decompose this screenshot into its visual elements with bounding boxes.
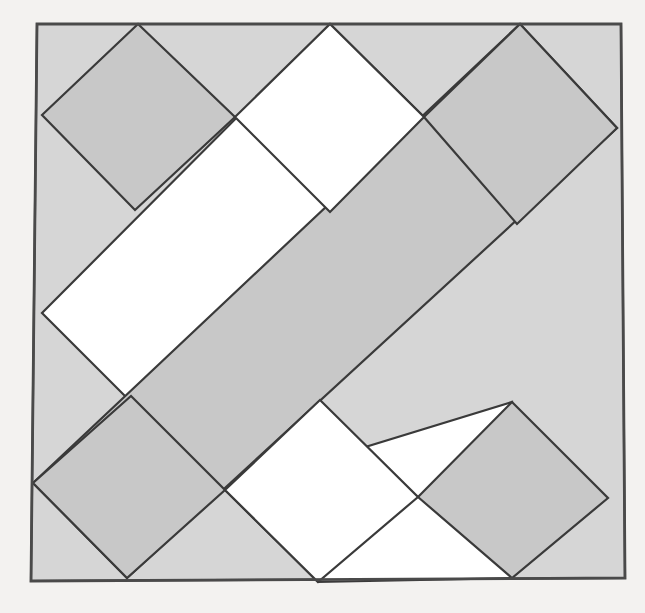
- geometric-tiling-figure: [0, 0, 645, 613]
- figure-root: [0, 0, 645, 613]
